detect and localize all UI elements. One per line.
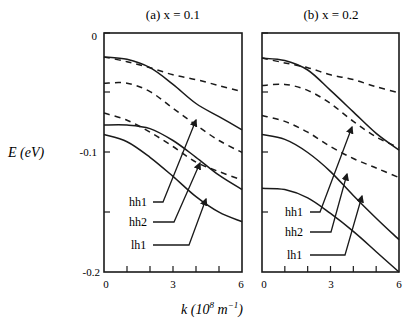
panel-a-xtick-3: 3 bbox=[170, 278, 176, 290]
panel-a-lh1-label: lh1 bbox=[131, 238, 146, 252]
panel-b-curves bbox=[262, 58, 399, 272]
ytick-minus-0.2: -0.2 bbox=[83, 266, 100, 278]
band-structure-figure: (a) x = 0.1 (b) x = 0.2 0 -0.1 -0.2 0 3 … bbox=[0, 0, 408, 325]
panel-b-callouts bbox=[310, 127, 362, 255]
panel-a-curve-hh1 bbox=[104, 57, 242, 130]
panel-b-curve-hh1 bbox=[262, 58, 399, 150]
y-axis-label: E (eV) bbox=[7, 145, 44, 161]
panel-a-hh1-label: hh1 bbox=[129, 195, 147, 209]
panel-b-curve-hh2 bbox=[262, 135, 399, 240]
ytick-minus-0.1: -0.1 bbox=[80, 146, 97, 158]
panel-b-hh1-arrow bbox=[310, 127, 352, 212]
panel-a-curve-hh2 bbox=[104, 125, 242, 190]
panel-b-xtick-3: 3 bbox=[328, 278, 334, 290]
panel-a-xtick-0: 0 bbox=[103, 278, 109, 290]
panel-a-curve-dashed-3 bbox=[104, 113, 242, 180]
panel-b-frame bbox=[262, 33, 399, 272]
panel-b-title: (b) x = 0.2 bbox=[304, 7, 359, 22]
panel-b-xtick-6: 6 bbox=[396, 278, 402, 290]
panel-a-curves bbox=[104, 57, 242, 222]
panel-a-hh2-arrow bbox=[153, 163, 200, 222]
panel-a-frame bbox=[104, 33, 242, 272]
panel-b-curve-lh1 bbox=[262, 188, 399, 272]
x-axis-label: k (108 m−1) bbox=[181, 300, 243, 318]
x-axis-ticks bbox=[127, 266, 376, 272]
panel-a-curve-dashed-1 bbox=[104, 57, 242, 92]
panel-a-hh2-label: hh2 bbox=[129, 215, 147, 229]
panel-b-curve-dashed-1 bbox=[262, 58, 399, 93]
panel-b-xtick-0: 0 bbox=[261, 278, 267, 290]
panel-b-hh1-label: hh1 bbox=[285, 205, 303, 219]
panel-a-xtick-6: 6 bbox=[238, 278, 244, 290]
panel-b-curve-dashed-3 bbox=[262, 115, 399, 177]
panel-b-lh1-label: lh1 bbox=[287, 248, 302, 262]
panel-a-title: (a) x = 0.1 bbox=[146, 7, 200, 22]
ytick-0: 0 bbox=[92, 30, 98, 42]
panel-b-hh2-label: hh2 bbox=[285, 225, 303, 239]
